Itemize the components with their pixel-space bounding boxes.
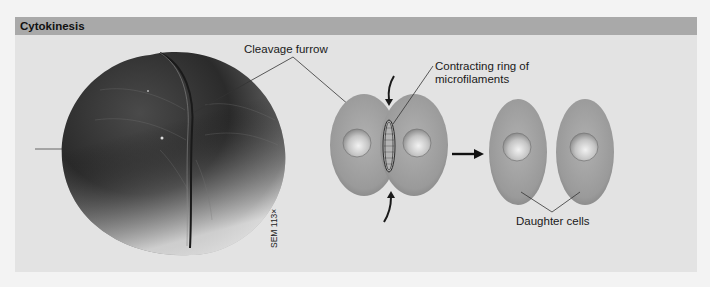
daughter-nucleus-1	[503, 133, 531, 161]
daughter-cells	[489, 99, 614, 205]
contracting-ring-label: Contracting ring of microfilaments	[435, 60, 545, 86]
daughter-cells-label: Daughter cells	[516, 215, 590, 228]
nucleus-left	[343, 129, 371, 157]
arrow-right-icon	[452, 149, 484, 159]
sem-highlight	[62, 52, 286, 255]
cytokinesis-figure: SEM 113×	[0, 0, 710, 287]
arrow-down-icon	[389, 76, 394, 100]
nucleus-right	[403, 129, 431, 157]
contracting-ring	[383, 120, 395, 172]
cleavage-furrow-label: Cleavage furrow	[244, 43, 328, 56]
dividing-cell	[330, 94, 448, 196]
arrow-up-icon	[384, 197, 391, 222]
daughter-nucleus-2	[570, 133, 598, 161]
magnification-caption: SEM 113×	[269, 209, 279, 248]
